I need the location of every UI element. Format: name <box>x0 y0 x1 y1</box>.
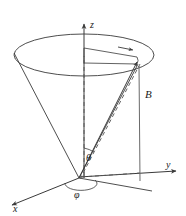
spherical-coordinate-figure: z y x B θ φ <box>0 0 186 216</box>
y-axis-label: y <box>165 159 171 170</box>
x-axis-label: x <box>12 203 18 214</box>
figure-canvas: z y x B θ φ <box>0 0 186 216</box>
cone-left-edge <box>14 53 79 178</box>
rim-direction-arrow <box>118 47 133 50</box>
y-axis-line <box>79 171 176 177</box>
phi-angle-label: φ <box>74 189 80 200</box>
vector-vertical-drop <box>139 66 140 181</box>
z-axis-label: z <box>89 19 94 30</box>
theta-angle-label: θ <box>86 152 91 163</box>
b-vector-label: B <box>145 88 152 100</box>
x-axis-line <box>12 178 79 205</box>
rim-sector-arc <box>137 57 138 64</box>
projection-dashed-line <box>81 173 140 177</box>
rim-sector-radius-bottom <box>84 63 137 64</box>
